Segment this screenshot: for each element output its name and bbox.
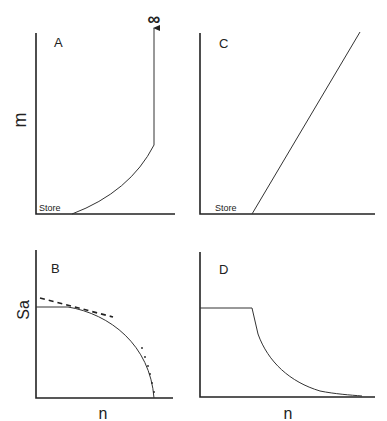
panel-c: C Store bbox=[200, 32, 375, 214]
panel-b-letter: B bbox=[51, 261, 60, 276]
panel-d-letter: D bbox=[219, 262, 228, 277]
panel-a: A m Store ∞ bbox=[10, 9, 175, 214]
panel-a-infinity-symbol: ∞ bbox=[148, 9, 161, 29]
panel-a-letter: A bbox=[54, 35, 63, 50]
panel-d: D n bbox=[200, 252, 375, 421]
panel-d-xlabel: n bbox=[284, 405, 293, 421]
panel-a-ylabel: m bbox=[10, 113, 30, 128]
figure: A m Store ∞ C Store B Sa n D n bbox=[0, 0, 387, 421]
panel-a-curve bbox=[72, 145, 154, 214]
panel-a-store-label: Store bbox=[39, 203, 61, 213]
panel-c-letter: C bbox=[219, 36, 228, 51]
panel-b-ylabel: Sa bbox=[15, 300, 32, 320]
panel-d-curve bbox=[200, 308, 362, 396]
panel-c-axes bbox=[200, 33, 375, 214]
panel-b: B Sa n bbox=[15, 250, 173, 421]
panel-c-store-label: Store bbox=[215, 203, 237, 213]
panel-c-line bbox=[252, 32, 360, 214]
panel-b-curve bbox=[36, 307, 154, 398]
panel-b-xlabel: n bbox=[99, 405, 108, 421]
